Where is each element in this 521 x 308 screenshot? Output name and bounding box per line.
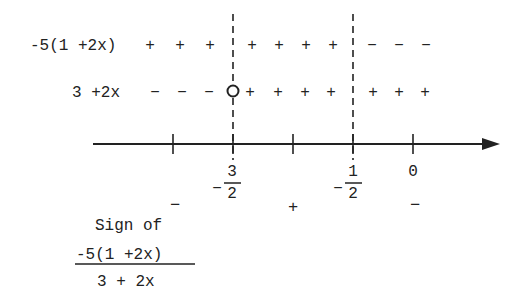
arrow-right-icon	[482, 138, 500, 150]
svg-text:−: −	[333, 180, 343, 198]
caption-numerator: -5(1 +2x)	[76, 246, 162, 264]
svg-text:+: +	[300, 84, 310, 102]
sign-chart: -5(1 +2x) + + + + + + + − − − 3 +2x − − …	[0, 0, 521, 308]
result-sign-left: −	[170, 196, 180, 215]
svg-text:+: +	[175, 37, 185, 55]
svg-text:−: −	[177, 84, 187, 102]
svg-text:+: +	[368, 84, 378, 102]
svg-text:+: +	[245, 84, 255, 102]
svg-text:+: +	[145, 37, 155, 55]
svg-text:3: 3	[227, 163, 237, 181]
svg-text:+: +	[274, 37, 284, 55]
svg-text:−: −	[204, 84, 214, 102]
row1-label: -5(1 +2x)	[30, 37, 116, 55]
svg-text:−: −	[421, 37, 431, 55]
result-sign-right: −	[410, 196, 420, 215]
svg-text:+: +	[205, 37, 215, 55]
svg-text:+: +	[301, 37, 311, 55]
svg-text:−: −	[394, 37, 404, 55]
caption-denominator: 3 + 2x	[97, 273, 155, 291]
svg-text:+: +	[247, 37, 257, 55]
zero-label: 0	[408, 163, 418, 181]
svg-text:+: +	[328, 37, 338, 55]
svg-text:+: +	[273, 84, 283, 102]
svg-text:2: 2	[227, 185, 237, 203]
svg-text:+: +	[326, 84, 336, 102]
svg-text:+: +	[394, 84, 404, 102]
svg-text:−: −	[212, 180, 222, 198]
svg-text:2: 2	[348, 185, 358, 203]
row2-label: 3 +2x	[72, 84, 120, 102]
svg-text:−: −	[367, 37, 377, 55]
svg-text:1: 1	[348, 163, 358, 181]
caption-line1: Sign of	[95, 217, 162, 235]
open-circle-marker	[228, 86, 239, 97]
svg-text:+: +	[420, 84, 430, 102]
svg-text:−: −	[150, 84, 160, 102]
result-sign-middle: +	[288, 198, 298, 217]
